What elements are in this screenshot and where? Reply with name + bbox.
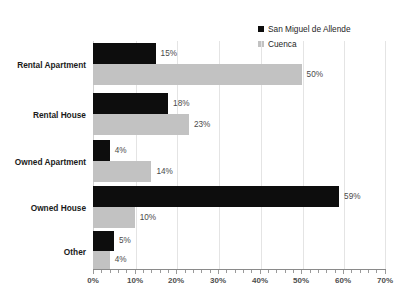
x-tick-label-50: 50% [293, 276, 309, 285]
axis-tick [110, 270, 111, 273]
bar-row: 14% [93, 161, 408, 182]
axis-tick [201, 270, 202, 273]
axis-tick [268, 270, 269, 273]
bar-value-label: 15% [161, 49, 177, 59]
bar-row: 50% [93, 64, 408, 85]
axis-tick [185, 270, 186, 273]
axis-tick [335, 270, 336, 273]
x-tick-label-0: 0% [87, 276, 99, 285]
bar-row: 18% [93, 93, 408, 114]
x-tick-label-20: 20% [168, 276, 184, 285]
axis-tick [310, 270, 311, 273]
bar-san-miguel-de-allende [93, 140, 110, 161]
bar-chart: San Miguel de Allende Cuenca 15% 50% Ren… [0, 0, 408, 299]
axis-tick [93, 270, 94, 274]
bar-value-label: 59% [344, 192, 360, 202]
axis-tick [385, 270, 386, 274]
bar-cuenca [93, 114, 189, 135]
bar-row: 23% [93, 114, 408, 135]
bar-cuenca [93, 207, 135, 228]
bar-row: 4% [93, 251, 408, 269]
bar-cuenca [93, 64, 302, 85]
bar-value-label: 10% [140, 213, 156, 223]
axis-tick [101, 270, 102, 273]
bar-row: 4% [93, 140, 408, 161]
bar-value-label: 23% [194, 120, 210, 130]
bar-row: 5% [93, 231, 408, 251]
axis-tick [151, 270, 152, 273]
axis-tick [226, 270, 227, 273]
square-marker-icon [258, 26, 264, 32]
axis-tick [285, 270, 286, 273]
axis-tick [251, 270, 252, 273]
bar-value-label: 4% [115, 255, 127, 265]
x-tick-label-30: 30% [210, 276, 226, 285]
x-tick-label-40: 40% [252, 276, 268, 285]
bar-cuenca [93, 161, 151, 182]
bar-value-label: 18% [173, 99, 189, 109]
bar-san-miguel-de-allende [93, 43, 156, 64]
category-label-other: Other [64, 247, 86, 257]
axis-tick [360, 270, 361, 273]
axis-tick [126, 270, 127, 273]
bar-value-label: 14% [156, 167, 172, 177]
category-label-owned-house: Owned House [31, 203, 86, 213]
axis-tick [210, 270, 211, 273]
axis-tick [343, 270, 344, 274]
category-label-rental-apartment: Rental Apartment [17, 60, 86, 70]
bar-cuenca [93, 251, 110, 269]
bar-san-miguel-de-allende [93, 231, 114, 251]
bar-row: 15% [93, 43, 408, 64]
legend-label: San Miguel de Allende [268, 24, 351, 34]
axis-tick [135, 270, 136, 274]
category-label-rental-house: Rental House [33, 110, 86, 120]
axis-tick [118, 270, 119, 273]
bar-value-label: 5% [119, 236, 131, 246]
axis-tick [326, 270, 327, 273]
axis-tick [276, 270, 277, 273]
axis-tick [301, 270, 302, 274]
axis-tick [143, 270, 144, 273]
category-label-owned-apartment: Owned Apartment [15, 157, 86, 167]
axis-tick [168, 270, 169, 273]
x-tick-label-10: 10% [127, 276, 143, 285]
x-tick-label-60: 60% [335, 276, 351, 285]
axis-tick [260, 270, 261, 274]
bar-row: 10% [93, 207, 408, 228]
axis-tick [243, 270, 244, 273]
axis-tick [218, 270, 219, 274]
x-tick-label-70: 70% [377, 276, 393, 285]
axis-tick [193, 270, 194, 273]
bar-san-miguel-de-allende [93, 186, 339, 207]
axis-tick [351, 270, 352, 273]
axis-tick [318, 270, 319, 273]
legend-item-san-miguel-de-allende: San Miguel de Allende [258, 22, 406, 35]
bar-group-other: 5% 4% [0, 231, 408, 269]
bar-san-miguel-de-allende [93, 93, 168, 114]
axis-tick [235, 270, 236, 273]
axis-tick [160, 270, 161, 273]
axis-tick [176, 270, 177, 274]
axis-tick [368, 270, 369, 273]
bar-value-label: 50% [307, 70, 323, 80]
bar-row: 59% [93, 186, 408, 207]
axis-tick [293, 270, 294, 273]
axis-tick [376, 270, 377, 273]
bar-value-label: 4% [115, 146, 127, 156]
